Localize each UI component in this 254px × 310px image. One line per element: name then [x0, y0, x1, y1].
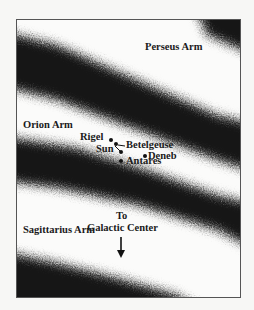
direction-label-to: To [116, 211, 127, 222]
star-label-sun: Sun [96, 144, 114, 155]
star-label-antares: Antares [126, 156, 161, 167]
galaxy-map: Perseus Arm Orion Arm Sagittarius Arm Ri… [16, 19, 241, 298]
sun-leader-line [115, 146, 120, 151]
arm-label-sagittarius: Sagittarius Arm [23, 225, 95, 236]
direction-label-galactic-center: Galactic Center [87, 223, 158, 234]
star-label-rigel: Rigel [80, 132, 103, 143]
arm-label-orion: Orion Arm [23, 120, 73, 131]
star-sun-dot [114, 142, 118, 146]
star-antares-dot [119, 159, 123, 163]
betelgeuse-leader-line [118, 145, 125, 146]
arm-label-perseus: Perseus Arm [145, 42, 202, 53]
star-rigel-dot [109, 138, 113, 142]
star-label-betelgeuse: Betelgeuse [126, 140, 173, 151]
arrow-down-icon [117, 237, 125, 258]
